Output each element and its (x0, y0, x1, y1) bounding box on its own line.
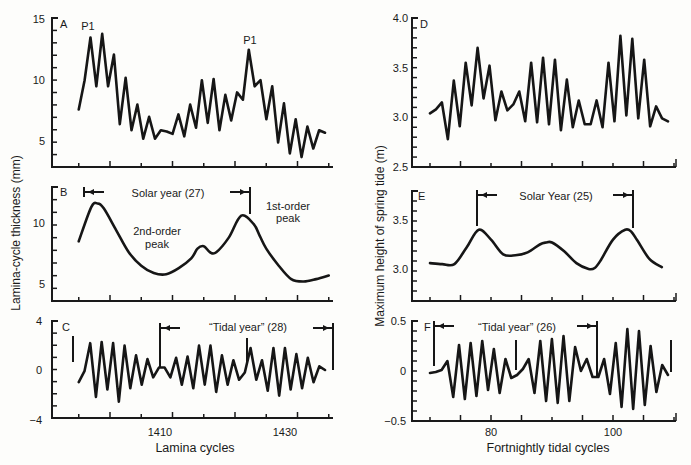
panel-e-interval-label: Solar Year (25) (519, 190, 592, 202)
left-y-axis-label: Lamina-cycle thickness (mm) (9, 155, 23, 310)
panel-b-annotation-second-order: 2nd-order (133, 225, 181, 237)
panel-f-interval-end-marker-arrowhead (587, 323, 593, 329)
panel-b-ytick: 10 (33, 217, 45, 229)
panel-d-ytick: 3.0 (393, 111, 408, 123)
panel-b-annotation-second-order: peak (145, 238, 169, 250)
panel-a-ytick: 5 (39, 135, 45, 147)
panel-a-ytick: 10 (33, 74, 45, 86)
panel-c-label: C (62, 321, 70, 333)
panel-b-annotation-first-order: peak (276, 212, 300, 224)
panel-c-interval-label: “Tidal year” (28) (209, 321, 287, 333)
panel-f-interval-label: “Tidal year” (26) (478, 321, 556, 333)
panel-c-xtick: 1410 (148, 426, 172, 438)
left-x-axis-label: Lamina cycles (155, 441, 234, 455)
right-x-axis-label: Fortnightly tidal cycles (487, 441, 610, 455)
panel-c-interval-start-marker-arrowhead (164, 325, 170, 331)
panel-e-data-line (430, 229, 662, 269)
panel-b-ytick: 5 (39, 278, 45, 290)
panel-f-xtick: 100 (604, 426, 622, 438)
panel-e-interval-start-marker-arrowhead (481, 192, 487, 198)
panel-b-annotation-first-order: 1st-order (266, 200, 310, 212)
panel-c-ytick: 4 (36, 315, 42, 327)
panel-e-ytick: 3.0 (393, 263, 408, 275)
panel-f-ytick: −0.5 (384, 415, 406, 427)
panel-e-interval-end-marker-arrowhead (623, 192, 629, 198)
panel-a-label: A (60, 18, 68, 30)
panel-e-ytick: 3.5 (393, 214, 408, 226)
panel-c-ytick: −4 (29, 414, 42, 426)
panel-a-peak-label: P1 (81, 20, 94, 32)
panel-f-label: F (424, 321, 431, 333)
panel-f-ytick: 0.5 (391, 315, 406, 327)
panel-e-axes (412, 191, 676, 301)
panel-b-interval-end-marker-arrowhead (240, 189, 246, 195)
panel-d-ytick: 2.5 (393, 161, 408, 173)
panel-b-interval-start-marker-arrowhead (88, 189, 94, 195)
panel-c-xtick: 1430 (273, 426, 297, 438)
panel-f-xtick: 80 (485, 426, 497, 438)
panel-f-interval-start-marker-arrowhead (438, 323, 444, 329)
panel-c-data-line (79, 342, 325, 402)
panel-d-data-line (430, 36, 668, 139)
panel-c-interval-end-marker-arrowhead (323, 325, 329, 331)
figure-canvas: Lamina-cycle thickness (mm) Maximum heig… (0, 0, 691, 465)
panel-a-peak-label: P1 (243, 34, 256, 46)
panel-b-label: B (60, 186, 67, 198)
right-y-axis-label: Maximum height of spring tide (m) (373, 145, 387, 326)
panel-d-ytick: 3.5 (393, 62, 408, 74)
panel-a-ytick: 15 (33, 13, 45, 25)
panel-f-data-line (430, 329, 668, 409)
panel-c-ytick: 0 (36, 364, 42, 376)
panel-f-ytick: 0 (400, 365, 406, 377)
panel-d-ytick: 4.0 (393, 12, 408, 24)
panel-d-label: D (420, 18, 428, 30)
panel-b-interval-label: Solar year (27) (132, 187, 205, 199)
panel-a-data-line (79, 34, 325, 157)
panel-e-label: E (418, 190, 425, 202)
